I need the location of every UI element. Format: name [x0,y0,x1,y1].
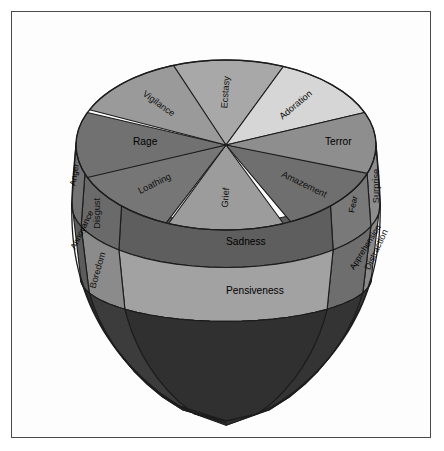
label-grief: Grief [220,187,231,208]
label-sadness: Sadness [226,236,266,247]
body-cell-unlabeled-sadness [125,309,327,425]
label-terror: Terror [325,136,352,147]
label-pensiveness: Pensiveness [226,285,284,296]
emotion-cone-diagram: EcstasyAdorationTerrorAmazementGriefLoat… [0,0,444,451]
label-surprise: Surprise [371,169,381,203]
figure-root: EcstasyAdorationTerrorAmazementGriefLoat… [0,0,444,451]
label-rage: Rage [133,136,158,147]
